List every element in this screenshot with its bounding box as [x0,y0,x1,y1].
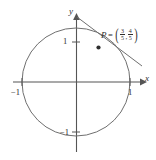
point-p-marker [96,45,100,49]
y-coordinate-fraction: 4 5 [128,28,133,42]
open-paren: ( [115,26,118,43]
close-paren: ) [134,26,137,43]
x-tick-label-pos1: 1 [128,88,132,97]
y-denominator: 5 [128,35,133,41]
point-p-name: P [101,30,107,40]
y-tick-label-pos1: 1 [63,37,67,46]
y-tick-label-neg1: −1 [60,128,69,137]
x-axis [13,79,147,86]
equals-sign: = [108,30,113,40]
x-tick-label-neg1: −1 [11,88,20,97]
x-coordinate-fraction: 3 5 [120,28,125,42]
x-denominator: 5 [120,35,125,41]
point-p-label: P = ( 3 5 , 4 5 ) [101,26,138,43]
x-axis-label: x [145,74,149,83]
figure-canvas [0,0,156,160]
coordinate-pair: 3 5 , 4 5 [120,28,133,42]
y-axis-label: y [69,7,73,16]
math-figure-unit-circle: y x −1 1 1 −1 P = ( 3 5 , 4 5 ) [0,0,156,160]
